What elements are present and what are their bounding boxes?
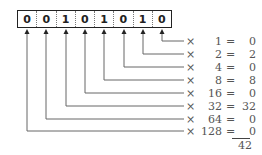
connector-bit-0 <box>162 33 184 41</box>
connector-bit-7 <box>27 33 184 131</box>
connector-bit-4 <box>85 33 184 93</box>
connector-bit-2 <box>124 33 184 67</box>
connector-bit-1 <box>143 33 184 54</box>
equals-sign: = <box>226 74 235 87</box>
multiplier: 16 <box>194 87 222 100</box>
weight-row-128: × 128 = 0 <box>186 125 262 138</box>
weight-row-32: × 32 = 32 <box>186 100 262 113</box>
binary-conversion-diagram: 0 0 1 0 1 0 1 0 <box>0 0 262 155</box>
equals-sign: = <box>226 35 235 48</box>
weight-row-8: × 8 = 8 <box>186 74 262 87</box>
product: 0 <box>236 35 256 48</box>
arrow-up-icon <box>160 29 165 34</box>
multiplier: 32 <box>194 100 222 113</box>
equals-sign: = <box>226 100 235 113</box>
arrow-up-icon <box>141 29 146 34</box>
arrow-up-icon <box>25 29 30 34</box>
sum-total: 42 <box>232 139 252 152</box>
product: 2 <box>236 48 256 61</box>
equals-sign: = <box>226 48 235 61</box>
weight-row-1: × 1 = 0 <box>186 35 262 48</box>
arrow-up-icon <box>64 29 69 34</box>
weight-row-16: × 16 = 0 <box>186 87 262 100</box>
weight-row-4: × 4 = 0 <box>186 61 262 74</box>
multiplier: 2 <box>194 48 222 61</box>
connector-bit-5 <box>66 33 184 106</box>
product: 0 <box>236 87 256 100</box>
equals-sign: = <box>226 61 235 74</box>
equals-sign: = <box>226 87 235 100</box>
multiplier: 128 <box>194 125 222 138</box>
arrow-up-icon <box>83 29 88 34</box>
arrow-up-icon <box>44 29 49 34</box>
product: 8 <box>236 74 256 87</box>
arrow-up-icon <box>102 29 107 34</box>
product: 32 <box>236 100 256 113</box>
multiplier: 1 <box>194 35 222 48</box>
weight-row-2: × 2 = 2 <box>186 48 262 61</box>
connector-bit-3 <box>104 33 184 80</box>
product: 0 <box>236 125 256 138</box>
multiplier: 8 <box>194 74 222 87</box>
arrow-up-icon <box>122 29 127 34</box>
multiplier: 4 <box>194 61 222 74</box>
equals-sign: = <box>226 125 235 138</box>
product: 0 <box>236 61 256 74</box>
arrow-heads <box>25 29 165 34</box>
